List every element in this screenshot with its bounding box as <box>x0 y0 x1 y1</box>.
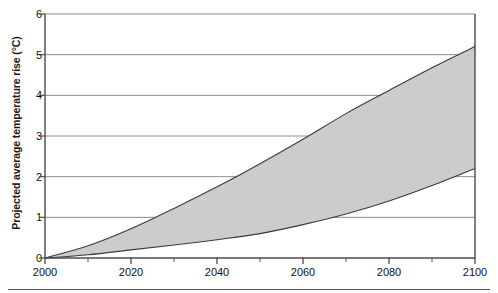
footer-divider <box>8 289 490 290</box>
x-tick-label-2060: 2060 <box>291 266 315 278</box>
x-tick-label-2100: 2100 <box>463 266 487 278</box>
x-tick-label-2040: 2040 <box>205 266 229 278</box>
temperature-projection-chart: Projected average temperature rise (°C) … <box>0 0 498 293</box>
x-axis-tick-label-group: 2000 2020 2040 2060 2080 2100 <box>0 0 498 293</box>
x-tick-label-2000: 2000 <box>33 266 57 278</box>
x-tick-label-2020: 2020 <box>119 266 143 278</box>
x-tick-label-2080: 2080 <box>377 266 401 278</box>
